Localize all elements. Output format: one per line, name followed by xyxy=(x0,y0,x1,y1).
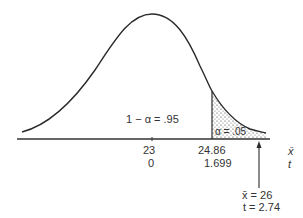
distribution-diagram xyxy=(0,0,303,218)
acceptance-region-label: 1 − α = .95 xyxy=(126,113,179,125)
tick-label-t-mean: 0 xyxy=(148,157,154,169)
axis-label-t: t xyxy=(288,158,291,170)
observed-arrow-head xyxy=(257,141,262,148)
observed-xbar-label: x̄ = 26 xyxy=(242,189,272,201)
tick-label-xbar-mean: 23 xyxy=(143,144,155,156)
observed-t-label: t = 2.74 xyxy=(243,201,280,213)
tick-label-xbar-critical: 24.86 xyxy=(198,144,226,156)
axis-label-xbar: x̄ xyxy=(288,145,294,157)
rejection-region-label: α = .05 xyxy=(215,126,246,138)
tick-label-t-critical: 1.699 xyxy=(204,157,232,169)
